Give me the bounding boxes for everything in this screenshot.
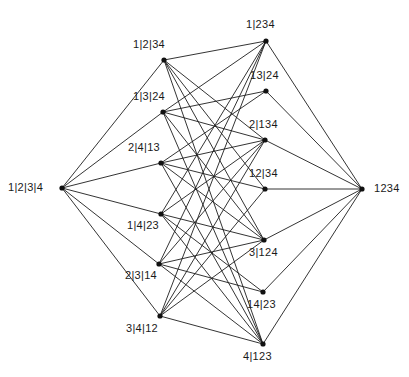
nodes-group bbox=[59, 38, 364, 346]
node-label-12-34: 12|34 bbox=[249, 167, 278, 179]
node-dot-1-234[interactable] bbox=[263, 38, 268, 43]
edge-13-24-to-top bbox=[266, 91, 362, 189]
node-dot-2-4-13[interactable] bbox=[158, 160, 163, 165]
node-label-2-4-13: 2|4|13 bbox=[128, 141, 160, 153]
edge-1-4-23-to-4-123 bbox=[161, 214, 263, 344]
hasse-diagram-canvas bbox=[0, 0, 409, 377]
edge-1-234-to-top bbox=[266, 41, 362, 189]
edge-3-124-to-top bbox=[264, 189, 362, 240]
node-label-3-124: 3|124 bbox=[249, 246, 278, 258]
edge-bottom-to-3-4-12 bbox=[62, 188, 160, 316]
node-label-bottom: 1|2|3|4 bbox=[8, 181, 43, 193]
node-dot-14-23[interactable] bbox=[260, 289, 265, 294]
edge-1-2-34-to-1-234 bbox=[164, 41, 266, 60]
node-label-2-134: 2|134 bbox=[249, 118, 278, 130]
node-label-1-234: 1|234 bbox=[246, 18, 275, 30]
node-label-1-3-24: 1|3|24 bbox=[133, 90, 165, 102]
node-dot-3-124[interactable] bbox=[261, 237, 266, 242]
node-label-top: 1234 bbox=[374, 182, 400, 194]
edge-bottom-to-1-2-34 bbox=[62, 60, 164, 188]
edge-14-23-to-top bbox=[263, 189, 362, 292]
node-dot-12-34[interactable] bbox=[262, 186, 267, 191]
node-dot-bottom[interactable] bbox=[59, 185, 64, 190]
node-label-14-23: 14|23 bbox=[247, 298, 276, 310]
node-dot-top[interactable] bbox=[359, 186, 364, 191]
node-dot-4-123[interactable] bbox=[260, 341, 265, 346]
node-label-4-123: 4|123 bbox=[243, 350, 272, 362]
edge-bottom-to-2-4-13 bbox=[62, 163, 161, 188]
edges-group bbox=[62, 41, 362, 344]
partition-lattice-diagram: 1|2|3|41|2|341|3|242|4|131|4|232|3|143|4… bbox=[0, 0, 409, 377]
edge-2-134-to-top bbox=[265, 140, 362, 189]
node-label-1-2-34: 1|2|34 bbox=[133, 38, 165, 50]
node-dot-1-4-23[interactable] bbox=[158, 211, 163, 216]
node-label-13-24: 13|24 bbox=[250, 69, 279, 81]
node-dot-13-24[interactable] bbox=[263, 88, 268, 93]
node-label-1-4-23: 1|4|23 bbox=[127, 219, 159, 231]
edge-bottom-to-1-4-23 bbox=[62, 188, 161, 214]
edge-4-123-to-top bbox=[263, 189, 362, 344]
node-dot-2-3-14[interactable] bbox=[156, 261, 161, 266]
node-label-2-3-14: 2|3|14 bbox=[125, 269, 157, 281]
edge-3-4-12-to-4-123 bbox=[160, 316, 263, 344]
node-dot-3-4-12[interactable] bbox=[157, 313, 162, 318]
node-dot-1-2-34[interactable] bbox=[161, 57, 166, 62]
node-dot-2-134[interactable] bbox=[262, 137, 267, 142]
node-dot-1-3-24[interactable] bbox=[160, 109, 165, 114]
node-label-3-4-12: 3|4|12 bbox=[126, 322, 158, 334]
